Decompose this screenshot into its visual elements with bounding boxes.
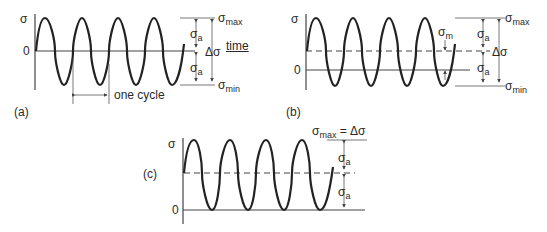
panel-a-sigma-max-label: σmax bbox=[218, 12, 242, 27]
panel-c-sigma-max-eq-label: σmax = Δσ bbox=[312, 125, 366, 140]
panel-b-sigma-min-label: σmin bbox=[505, 80, 527, 95]
panel-b-label: (b) bbox=[286, 106, 301, 118]
panel-b-sine-wave bbox=[307, 18, 455, 86]
panel-a-time-label: time bbox=[226, 40, 249, 52]
panel-a-sigma-a-lower-label: σa bbox=[190, 62, 202, 77]
panel-c-sigma-a-upper-label: σa bbox=[338, 152, 350, 167]
panel-a-one-cycle-label: one cycle bbox=[114, 89, 165, 101]
panel-c-sigma-a-lower-label: σa bbox=[338, 186, 350, 201]
panel-c-sine-wave bbox=[184, 140, 333, 210]
panel-b-sigma-max-label: σmax bbox=[505, 12, 529, 27]
panel-a-y-axis-label: σ bbox=[20, 13, 27, 25]
panel-b-sigma-a-upper-label: σa bbox=[477, 28, 489, 43]
panel-a-sigma-min-label: σmin bbox=[218, 79, 240, 94]
panel-b-sigma-m-label: σm bbox=[438, 26, 453, 41]
panel-c-label: (c) bbox=[143, 168, 157, 180]
panel-a-label: (a) bbox=[14, 106, 29, 118]
panel-b-y-axis-label: σ bbox=[291, 13, 298, 25]
panel-b bbox=[306, 14, 505, 90]
panel-c-y-axis-label: σ bbox=[168, 138, 175, 150]
cyclic-stress-figure bbox=[0, 0, 547, 232]
panel-b-sigma-a-lower-label: σa bbox=[477, 62, 489, 77]
panel-c-zero-label: 0 bbox=[172, 204, 179, 216]
panel-b-zero-label: 0 bbox=[294, 64, 301, 76]
panel-a-delta-sigma-label: Δσ bbox=[205, 46, 220, 58]
panel-a-zero-label: 0 bbox=[23, 45, 30, 57]
panel-b-delta-sigma-label: Δσ bbox=[492, 46, 507, 58]
panel-a-sigma-a-upper-label: σa bbox=[190, 28, 202, 43]
